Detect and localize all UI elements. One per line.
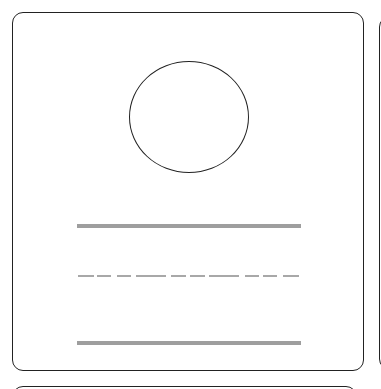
avatar-placeholder-circle bbox=[129, 61, 249, 173]
subtitle-placeholder-dashed-line bbox=[78, 275, 300, 277]
wireframe-card[interactable] bbox=[12, 12, 364, 371]
footer-placeholder-line bbox=[77, 341, 301, 345]
title-placeholder-line bbox=[77, 224, 301, 228]
